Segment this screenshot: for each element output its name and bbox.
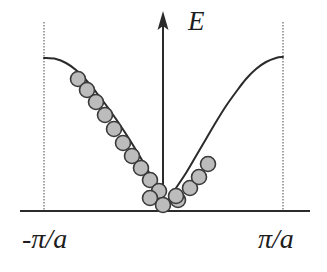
filled-state-dot xyxy=(169,189,184,204)
left-zone-boundary-label: -π/a xyxy=(22,225,67,253)
right-zone-boundary-label: π/a xyxy=(258,225,294,253)
filled-state-dot xyxy=(116,136,131,151)
filled-states-group xyxy=(71,72,216,213)
filled-state-dot xyxy=(192,170,207,185)
energy-axis-label: E xyxy=(188,8,205,35)
filled-state-dot xyxy=(201,157,216,172)
filled-state-dot xyxy=(89,95,104,110)
filled-state-dot xyxy=(156,198,171,213)
filled-state-dot xyxy=(98,108,113,123)
band-diagram-figure: E -π/a π/a xyxy=(0,0,327,272)
filled-state-dot xyxy=(107,122,122,137)
